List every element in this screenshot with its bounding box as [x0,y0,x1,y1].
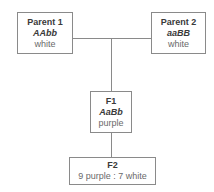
f2-label: F2 [107,160,118,171]
parent1-phenotype: white [34,39,55,50]
f2-node: F2 9 purple : 7 white [69,157,156,185]
parent1-node: Parent 1 AAbb white [17,12,73,54]
parent2-genotype: aaBB [167,28,190,39]
parent2-label: Parent 2 [161,17,197,28]
parent2-node: Parent 2 aaBB white [151,12,206,54]
parent2-phenotype: white [168,39,189,50]
parents-to-f1-line [111,38,112,91]
f1-to-f2-line [111,132,112,157]
f1-phenotype: purple [98,118,123,129]
parent1-label: Parent 1 [27,17,63,28]
parent1-genotype: AAbb [33,28,57,39]
f2-ratio: 9 purple : 7 white [78,171,147,182]
f1-node: F1 AaBb purple [90,91,132,133]
f1-genotype: AaBb [99,107,123,118]
f1-label: F1 [106,96,117,107]
